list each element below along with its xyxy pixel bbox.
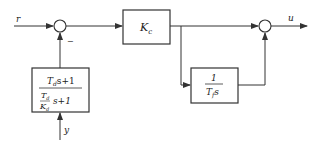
kc-label: Kc [139,21,152,36]
output-u-label: u [288,13,294,23]
feedback-numerator: Tds+1 [47,76,75,87]
feedback-denominator-rest: s+1 [53,96,71,106]
summing-junction-1 [54,20,66,32]
block-diagram: r u y − Kc 1 Tfs Tds+1 Td Kd s+1 [0,0,319,145]
summing-junction-2 [259,20,271,32]
integrator-numerator: 1 [211,73,217,83]
feedback-denominator-td: Td [41,91,50,101]
input-y-label: y [63,125,70,135]
branch-to-integrator-line [181,26,190,85]
integrator-to-sum2-line [238,33,265,85]
integrator-denominator: Tfs [206,87,219,99]
feedback-denominator-kd: Kd [39,102,49,112]
input-r-label: r [16,14,21,24]
sum1-minus-sign: − [67,37,74,46]
